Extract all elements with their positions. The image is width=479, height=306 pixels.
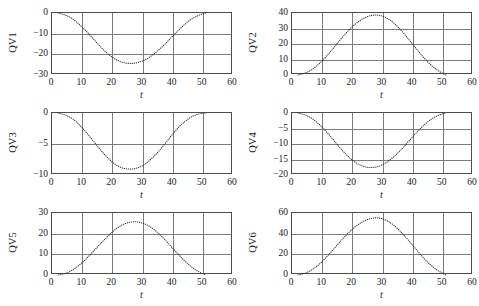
xtick-label: 50 [429,177,455,187]
data-curve-qv5 [52,213,233,275]
xtick-label: 60 [459,77,479,87]
data-curve-qv4 [292,113,473,175]
xtick-label: 30 [129,177,155,187]
xtick-label: 40 [159,77,185,87]
data-curve-qv6 [292,213,473,275]
plot-area-qv3 [51,112,232,174]
xaxis-title-qv5: t [51,289,232,300]
xtick-label: 10 [308,77,334,87]
xtick-label: 40 [159,177,185,187]
xtick-label: 10 [308,277,334,287]
subplot-qv6: 01020304050600204060tQV6 [240,200,479,302]
figure-six-subplots: 01020304050600−10−20−30tQV10102030405060… [0,0,479,306]
xtick-label: 30 [129,277,155,287]
yaxis-title-qv3: QV3 [7,112,18,174]
xtick-label: 40 [399,77,425,87]
xtick-label: 20 [98,277,124,287]
xtick-label: 10 [68,277,94,287]
xtick-label: 30 [129,77,155,87]
xtick-label: 40 [399,277,425,287]
yaxis-title-qv6: QV6 [247,212,258,274]
xaxis-title-qv3: t [51,189,232,200]
xtick-label: 60 [459,277,479,287]
xaxis-title-qv1: t [51,89,232,100]
xtick-label: 50 [189,177,215,187]
xaxis-title-qv6: t [291,289,472,300]
subplot-qv1: 01020304050600−10−20−30tQV1 [0,0,239,102]
xtick-label: 20 [338,77,364,87]
xtick-label: 20 [338,177,364,187]
plot-area-qv5 [51,212,232,274]
plot-area-qv6 [291,212,472,274]
plot-area-qv4 [291,112,472,174]
plot-area-qv1 [51,12,232,74]
xtick-label: 40 [399,177,425,187]
plot-area-qv2 [291,12,472,74]
subplot-qv4: 01020304050600−5−10−15−20tQV4 [240,100,479,202]
data-curve-qv2 [292,13,473,75]
xtick-label: 50 [189,77,215,87]
xtick-label: 30 [369,177,395,187]
xtick-label: 20 [338,277,364,287]
data-curve-qv1 [52,13,233,75]
xtick-label: 50 [429,77,455,87]
data-curve-qv3 [52,113,233,175]
subplot-qv2: 0102030405060010203040tQV2 [240,0,479,102]
xtick-label: 20 [98,77,124,87]
xtick-label: 60 [459,177,479,187]
yaxis-title-qv2: QV2 [247,12,258,74]
xtick-label: 20 [98,177,124,187]
yaxis-title-qv4: QV4 [247,112,258,174]
xtick-label: 50 [189,277,215,287]
xaxis-title-qv4: t [291,189,472,200]
xtick-label: 10 [68,177,94,187]
xaxis-title-qv2: t [291,89,472,100]
xtick-label: 10 [308,177,334,187]
yaxis-title-qv5: QV5 [7,212,18,274]
xtick-label: 50 [429,277,455,287]
xtick-label: 10 [68,77,94,87]
xtick-label: 40 [159,277,185,287]
xtick-label: 30 [369,77,395,87]
yaxis-title-qv1: QV1 [7,12,18,74]
subplot-qv5: 01020304050600102030tQV5 [0,200,239,302]
subplot-qv3: 01020304050600−5−10tQV3 [0,100,239,202]
xtick-label: 30 [369,277,395,287]
